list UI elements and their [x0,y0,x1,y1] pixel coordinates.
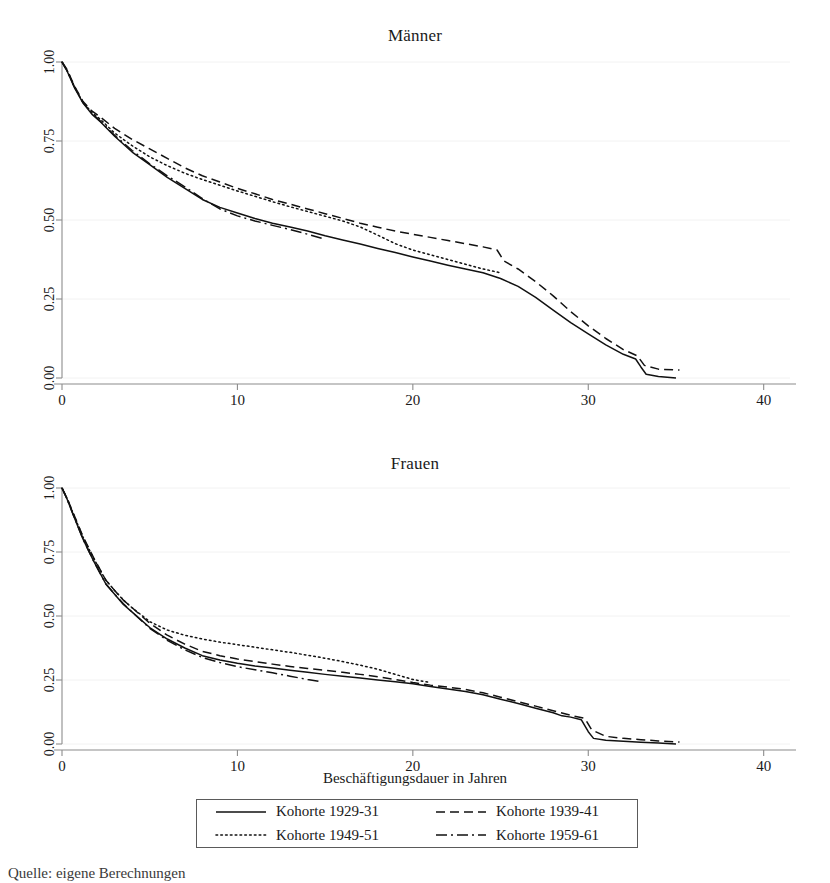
figure-survival-curves: Männer 0.000.250.500.751.00010203040 Fra… [0,0,830,883]
xaxis-title: Beschäftigungsdauer in Jahren [0,770,830,787]
legend-sample-dashed [435,806,487,818]
series-line-dashed [62,488,679,742]
legend-item: Kohorte 1929-31 [197,803,417,820]
legend-sample-dashdot [435,829,487,841]
legend-label: Kohorte 1939-41 [496,803,599,820]
xtick-label: 40 [756,392,771,408]
legend-item: Kohorte 1939-41 [417,803,637,820]
ytick-label: 1.00 [42,476,57,501]
ytick-label: 0.00 [42,732,57,757]
ytick-label: 1.00 [42,50,57,75]
ytick-label: 0.25 [42,287,57,312]
legend-label: Kohorte 1959-61 [496,827,599,844]
legend-label: Kohorte 1949-51 [276,827,379,844]
legend-sample-solid [215,806,267,818]
xtick-label: 30 [581,392,596,408]
legend-item: Kohorte 1949-51 [197,827,417,844]
ytick-label: 0.50 [42,604,57,629]
plot-area-frauen: 0.000.250.500.751.00010203040 [0,440,830,780]
plot-area-maenner: 0.000.250.500.751.00010203040 [0,0,830,440]
series-line-dotted [62,62,501,273]
series-line-dashed [62,62,679,370]
ytick-label: 0.00 [42,366,57,391]
ytick-label: 0.75 [42,540,57,565]
legend-item: Kohorte 1959-61 [417,827,637,844]
chart-panel-maenner: Männer 0.000.250.500.751.00010203040 [0,0,830,440]
series-line-dashdot [62,62,322,238]
series-line-dashdot [62,488,322,682]
legend: Kohorte 1929-31Kohorte 1939-41Kohorte 19… [196,799,638,848]
legend-sample-dotted [215,829,267,841]
ytick-label: 0.50 [42,208,57,233]
caption-strip: Quelle: eigene Berechnungen [0,868,830,883]
ytick-label: 0.25 [42,668,57,693]
series-line-dotted [62,488,430,683]
caption-text: Quelle: eigene Berechnungen [8,868,185,882]
xtick-label: 20 [405,392,420,408]
xtick-label: 10 [230,392,245,408]
ytick-label: 0.75 [42,129,57,154]
xtick-label: 0 [58,392,66,408]
legend-label: Kohorte 1929-31 [276,803,379,820]
chart-panel-frauen: Frauen 0.000.250.500.751.00010203040 [0,440,830,780]
